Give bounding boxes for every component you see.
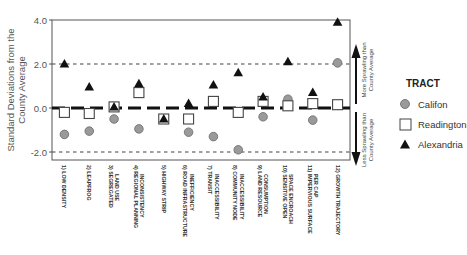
y-axis-label-line: Standard Deviations from the xyxy=(5,28,16,151)
y-tick-label: 0.0 xyxy=(34,103,47,114)
readington-point xyxy=(208,96,218,106)
plot-frame xyxy=(52,20,350,160)
up-arrow-icon xyxy=(352,44,361,58)
readington-point xyxy=(283,101,293,111)
y-axis-label: Standard Deviations from theCounty Avera… xyxy=(5,28,27,151)
readington-point xyxy=(184,114,194,124)
alexandria-point xyxy=(60,59,70,68)
califon-point xyxy=(234,146,243,155)
x-category-label-line: 12) GROWTH TRAJECTORY xyxy=(335,165,341,236)
y-axis-label-line: County Average xyxy=(16,56,27,123)
readington-point xyxy=(333,100,343,110)
alexandria-point xyxy=(84,82,94,91)
alexandria-point xyxy=(184,99,194,108)
x-category-label: 3) SEGREGATEDLAND USE xyxy=(108,165,121,208)
alexandria-point xyxy=(308,88,318,97)
readington-point xyxy=(134,88,144,98)
up-arrow-label: County Average xyxy=(368,48,374,91)
x-category-label-line: 6) ROAD INFRASTRUCTURE xyxy=(182,165,188,238)
x-category-label-line: CONSUMPTION xyxy=(263,174,269,214)
alexandria-point xyxy=(283,57,293,66)
legend-label: Califon xyxy=(418,99,448,110)
legend-label: Alexandria xyxy=(418,139,463,150)
califon-point xyxy=(209,132,218,141)
x-category-label: 11) IMPERVIOUS SURFACEPER CAP xyxy=(307,165,320,234)
califon-point xyxy=(259,113,268,122)
alexandria-point xyxy=(333,17,343,26)
x-category-label-line: INEFFICIENCY xyxy=(189,174,195,211)
x-category-label: 10) SENSITIVE OPENSPACE ENCROACH xyxy=(282,165,295,224)
x-category-label: 1) LOW DENSITY xyxy=(61,165,67,208)
down-arrow-label: County Average xyxy=(368,118,374,161)
califon-point xyxy=(85,127,94,136)
square-marker-icon xyxy=(398,117,412,131)
y-tick-label: 4.0 xyxy=(34,15,47,26)
circle-marker-icon xyxy=(398,97,412,111)
data-points xyxy=(59,17,342,154)
readington-point xyxy=(308,99,318,109)
readington-point xyxy=(233,107,243,117)
readington-point xyxy=(84,109,94,119)
x-category-label-line: INACCESSIBILITY xyxy=(214,174,220,220)
x-category-label-line: PER CAP xyxy=(313,174,319,198)
califon-point xyxy=(308,116,317,125)
x-category-label-line: INCONSISTENCY xyxy=(139,174,145,218)
x-category-label: 5) HIGHWAY STRIP xyxy=(161,165,167,213)
x-category-label: 6) ROAD INFRASTRUCTUREINEFFICIENCY xyxy=(182,165,195,238)
y-tick-label: 2.0 xyxy=(34,59,47,70)
legend-title: TRACT xyxy=(406,78,467,89)
x-category-label-line: INACCESSIBILITY xyxy=(239,174,245,220)
legend-item-readington: Readington xyxy=(398,114,467,134)
x-category-label-line: 8) COMMUNITY NODE xyxy=(232,165,238,221)
y-tick-label: -2.0 xyxy=(31,147,47,158)
readington-point xyxy=(59,107,69,117)
x-category-label-line: SPACE ENCROACH xyxy=(288,174,294,224)
x-category-label-line: 11) IMPERVIOUS SURFACE xyxy=(307,165,313,234)
alexandria-point xyxy=(233,68,243,77)
x-category-label-line: 5) HIGHWAY STRIP xyxy=(161,165,167,213)
x-category-label-line: 2) LEAPFROG xyxy=(86,165,92,201)
califon-point xyxy=(184,128,193,137)
x-category-label-line: 9) LAND RESOURCE xyxy=(257,165,263,218)
up-arrow-label: More Sprawling than xyxy=(361,42,367,97)
alexandria-point xyxy=(209,80,219,89)
x-category-label: 4) REGIONAL PLANNINGINCONSISTENCY xyxy=(133,165,146,228)
alexandria-point xyxy=(134,79,144,88)
legend-item-alexandria: Alexandria xyxy=(398,134,467,154)
x-category-label-line: 4) REGIONAL PLANNING xyxy=(133,165,139,228)
califon-point xyxy=(333,59,342,68)
y-axis-ticks: 4.02.00.0-2.0 xyxy=(31,15,52,158)
x-axis-category-labels: 1) LOW DENSITY2) LEAPFROG3) SEGREGATEDLA… xyxy=(61,165,340,238)
x-category-label: 9) LAND RESOURCECONSUMPTION xyxy=(257,165,270,218)
legend: TRACT Califon Readington Alexandria xyxy=(398,78,467,154)
reference-lines xyxy=(52,64,350,152)
direction-arrows: More Sprawling thanCounty AverageLess Sp… xyxy=(352,42,375,167)
x-category-label: 12) GROWTH TRAJECTORY xyxy=(335,165,341,236)
califon-point xyxy=(60,130,69,139)
x-category-label: 2) LEAPFROG xyxy=(86,165,92,201)
legend-label: Readington xyxy=(418,119,467,130)
down-arrow-label: Less Sprawling than xyxy=(361,113,367,167)
x-category-label-line: 7) TRANSIT xyxy=(207,165,213,195)
x-category-label-line: LAND USE xyxy=(114,174,120,202)
x-category-label: 8) COMMUNITY NODEINACCESSIBILITY xyxy=(232,165,245,221)
califon-point xyxy=(110,115,119,124)
califon-point xyxy=(135,125,144,134)
x-category-label-line: 10) SENSITIVE OPEN xyxy=(282,165,288,218)
x-category-label-line: 1) LOW DENSITY xyxy=(61,165,67,208)
x-category-label: 7) TRANSITINACCESSIBILITY xyxy=(207,165,220,220)
legend-item-califon: Califon xyxy=(398,94,467,114)
triangle-marker-icon xyxy=(398,137,412,151)
x-category-label-line: 3) SEGREGATED xyxy=(108,165,114,208)
down-arrow-icon xyxy=(352,152,361,166)
